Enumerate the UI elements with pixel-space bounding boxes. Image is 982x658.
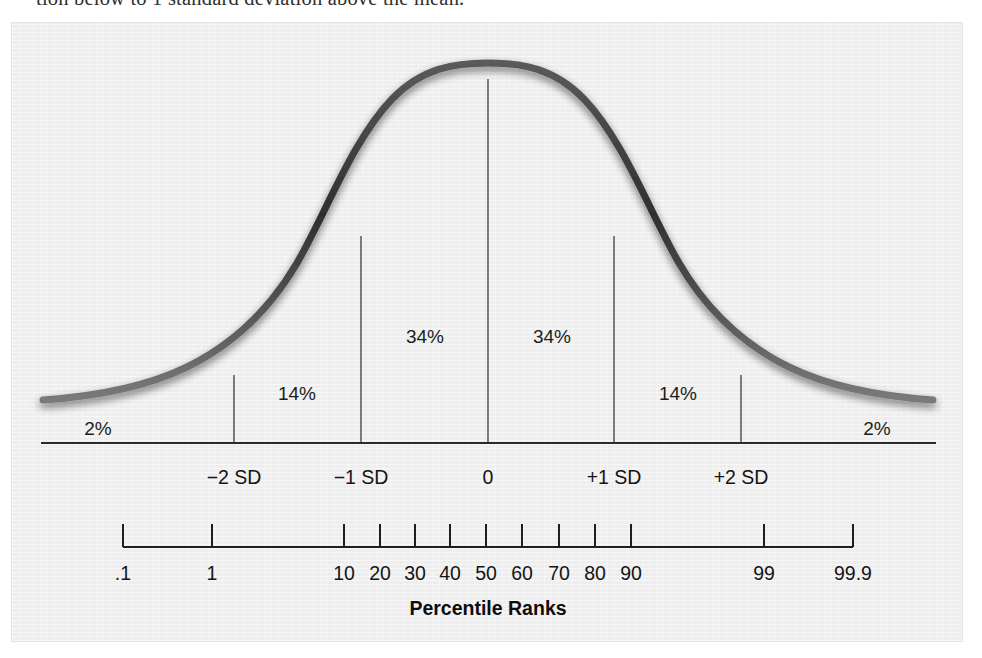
percentile-label-9: 80 (584, 562, 606, 584)
percentile-label-8: 70 (548, 562, 570, 584)
region-label-0: 2% (84, 418, 112, 439)
region-label-1: 14% (278, 383, 316, 404)
region-label-3: 34% (533, 326, 571, 347)
x-axis-title: Percentile Ranks (409, 597, 566, 619)
percentile-label-0: .1 (115, 562, 131, 584)
sd-label-plus1: +1 SD (587, 466, 642, 488)
sd-axis-labels: −2 SD −1 SD 0 +1 SD +2 SD (207, 466, 769, 488)
percentile-ruler (123, 524, 853, 547)
region-label-4: 14% (659, 383, 697, 404)
percentile-label-4: 30 (404, 562, 426, 584)
percentile-label-1: 1 (207, 562, 218, 584)
percentile-label-5: 40 (439, 562, 461, 584)
percentile-label-7: 60 (511, 562, 533, 584)
normal-curve-chart: 2% 14% 34% 34% 14% 2% −2 SD −1 SD 0 +1 S… (12, 23, 962, 641)
percentile-label-3: 20 (369, 562, 391, 584)
region-label-5: 2% (863, 418, 891, 439)
percentile-tick-labels: .1 1 10 20 30 40 50 60 70 80 90 99 99.9 (115, 562, 872, 584)
percentile-label-10: 90 (620, 562, 642, 584)
region-label-2: 34% (406, 326, 444, 347)
figure-panel: 2% 14% 34% 34% 14% 2% −2 SD −1 SD 0 +1 S… (11, 22, 963, 642)
body-text-line: tion below to 1 standard deviation above… (0, 0, 982, 13)
sd-label-zero: 0 (483, 466, 494, 488)
percentile-label-6: 50 (475, 562, 497, 584)
percentile-label-11: 99 (753, 562, 775, 584)
percentile-label-2: 10 (333, 562, 355, 584)
percentile-label-12: 99.9 (834, 562, 872, 584)
sd-label-minus2: −2 SD (207, 466, 262, 488)
sd-label-plus2: +2 SD (714, 466, 769, 488)
sd-label-minus1: −1 SD (334, 466, 389, 488)
